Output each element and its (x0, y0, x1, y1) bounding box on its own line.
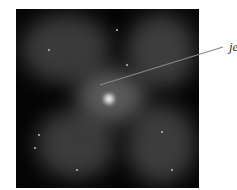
jet-leader-line (0, 0, 237, 190)
jet-label: jet (229, 39, 237, 55)
